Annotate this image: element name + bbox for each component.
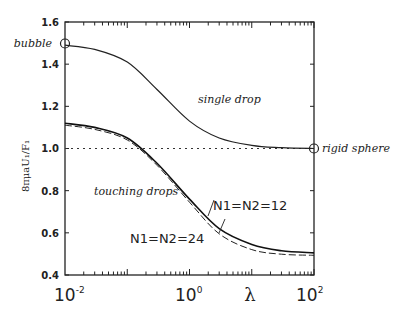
annotation-touching-drops: touching drops xyxy=(94,185,178,198)
y-tick-labels: 1.6 1.4 1.2 1.0 0.8 0.6 0.4 xyxy=(41,17,59,281)
series-single-drop xyxy=(65,45,314,148)
x-tick-exp: -2 xyxy=(76,285,85,295)
x-tick-labels: 10-2 100 102 xyxy=(54,285,323,305)
x-tick-exp: 2 xyxy=(318,285,324,295)
x-tick-exp: 0 xyxy=(197,285,203,295)
y-tick-label: 0.4 xyxy=(41,270,59,281)
x-tick-label: 10-2 xyxy=(54,285,85,305)
y-tick-label: 1.2 xyxy=(41,101,59,112)
annotation-single-drop: single drop xyxy=(198,93,261,106)
y-tick-label: 1.4 xyxy=(41,59,59,70)
y-tick-label: 1.6 xyxy=(41,17,59,28)
annotation-n24: N1=N2=24 xyxy=(130,231,204,246)
x-tick-label: 102 xyxy=(296,285,323,305)
x-tick-base: 10 xyxy=(175,285,197,305)
annotation-n12: N1=N2=12 xyxy=(213,198,287,213)
y-tick-label: 0.6 xyxy=(41,228,59,239)
annotation-bubble: bubble xyxy=(14,37,53,50)
line-chart: 1.6 1.4 1.2 1.0 0.8 0.6 0.4 10-2 100 102… xyxy=(0,0,401,323)
x-tick-base: 10 xyxy=(296,285,318,305)
y-axis-label: 8πμaU₁/F₁ xyxy=(20,140,31,192)
y-tick-label: 1.0 xyxy=(41,143,59,154)
y-tick-label: 0.8 xyxy=(41,186,59,197)
annotation-rigid-sphere: rigid sphere xyxy=(322,142,390,155)
x-tick-base: 10 xyxy=(54,285,76,305)
x-tick-label: 100 xyxy=(175,285,203,305)
x-axis-label: λ xyxy=(244,284,255,305)
